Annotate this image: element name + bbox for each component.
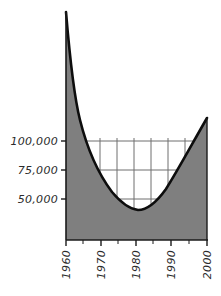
chart-background bbox=[0, 0, 221, 296]
x-axis-label-2000: 2000 bbox=[201, 250, 214, 279]
area-chart: 100,000 75,000 50,000 1960 1970 1980 199… bbox=[0, 0, 221, 296]
y-axis-label-100000: 100,000 bbox=[10, 135, 58, 148]
x-axis-label-1980: 1980 bbox=[130, 250, 143, 279]
y-axis-label-75000: 75,000 bbox=[18, 164, 58, 177]
x-axis-label-1970: 1970 bbox=[95, 250, 108, 279]
x-axis-label-1960: 1960 bbox=[60, 250, 73, 279]
x-axis-label-1990: 1990 bbox=[165, 250, 178, 279]
chart-container: 100,000 75,000 50,000 1960 1970 1980 199… bbox=[0, 0, 221, 296]
y-axis-label-50000: 50,000 bbox=[18, 193, 58, 206]
